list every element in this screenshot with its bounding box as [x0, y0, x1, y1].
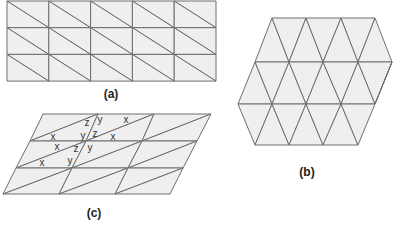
- angle-label-z: z: [85, 118, 90, 128]
- angle-label-x: x: [40, 158, 45, 168]
- angle-label-y: y: [88, 143, 93, 153]
- diagram-canvas: [0, 0, 398, 225]
- angle-label-x: x: [124, 115, 129, 125]
- angle-label-x: x: [55, 142, 60, 152]
- angle-label-z: z: [93, 129, 98, 139]
- angle-label-y: y: [68, 156, 73, 166]
- angle-label-z: z: [74, 144, 79, 154]
- panel-c-parallelogram-grid: [3, 114, 211, 194]
- panel-a-caption: (a): [104, 87, 119, 101]
- angle-label-x: x: [111, 132, 116, 142]
- panel-c-caption: (c): [87, 206, 102, 220]
- panel-a-rectangular-grid: [7, 1, 216, 81]
- angle-label-y: y: [98, 115, 103, 125]
- angle-label-y: y: [81, 131, 86, 141]
- panel-b-caption: (b): [299, 165, 314, 179]
- panel-b-hexagonal-triangulation: [238, 18, 392, 145]
